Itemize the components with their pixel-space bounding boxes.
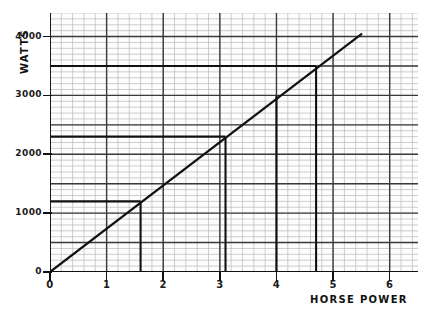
x-tick-mark [219, 272, 221, 281]
y-tick-label: 2000 [6, 148, 42, 158]
x-tick-mark [332, 272, 334, 281]
x-tick-mark [162, 272, 164, 281]
chart-figure: WATTS HORSE POWER 0100020003000400001234… [0, 0, 431, 313]
y-tick-label: 1000 [6, 207, 42, 217]
grid-minor [50, 13, 418, 272]
x-tick-mark [49, 272, 51, 281]
y-tick-label: 3000 [6, 89, 42, 99]
y-tick-mark [43, 212, 52, 214]
y-tick-mark [43, 153, 52, 155]
y-tick-label: 4000 [6, 31, 42, 41]
plot-area [50, 13, 418, 272]
x-tick-mark [106, 272, 108, 281]
y-tick-mark [43, 36, 52, 38]
x-axis-title: HORSE POWER [310, 294, 408, 305]
data-series-line [50, 34, 361, 272]
chart-canvas [50, 13, 418, 272]
x-tick-mark [276, 272, 278, 281]
x-tick-mark [389, 272, 391, 281]
y-tick-label: 0 [6, 266, 42, 276]
y-tick-mark [43, 95, 52, 97]
